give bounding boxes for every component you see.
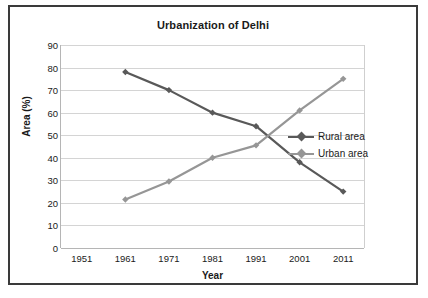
y-tick-label-90: 90 [12,40,58,51]
y-tick-label-0: 0 [12,243,58,254]
x-axis-ticks: 1951196119711981199120012011 [60,253,365,269]
legend-item-rural-area[interactable]: Rural area [288,129,410,144]
y-tick-label-20: 20 [12,197,58,208]
data-point-urban-area-1961 [122,196,128,202]
y-tick-label-40: 40 [12,152,58,163]
legend-swatch-icon [288,131,314,143]
chart-legend: Rural areaUrban area [288,129,410,163]
data-point-rural-area-1961 [122,69,128,75]
chart-frame: Urbanization of Delhi Area (%) 908070605… [8,5,418,285]
y-tick-label-10: 10 [12,220,58,231]
legend-item-urban-area[interactable]: Urban area [288,146,410,161]
y-tick-label-30: 30 [12,175,58,186]
y-tick-label-70: 70 [12,85,58,96]
x-axis-title: Year [60,270,365,281]
legend-swatch-icon [288,148,314,160]
chart-title: Urbanization of Delhi [10,19,416,31]
gridline-0 [61,248,364,249]
x-tick-label-2011: 2011 [313,253,373,264]
legend-label: Rural area [318,131,365,142]
y-tick-label-50: 50 [12,130,58,141]
y-tick-label-80: 80 [12,62,58,73]
y-tick-label-60: 60 [12,107,58,118]
y-axis-ticks: 9080706050403020100 [10,45,58,248]
legend-label: Urban area [318,148,368,159]
